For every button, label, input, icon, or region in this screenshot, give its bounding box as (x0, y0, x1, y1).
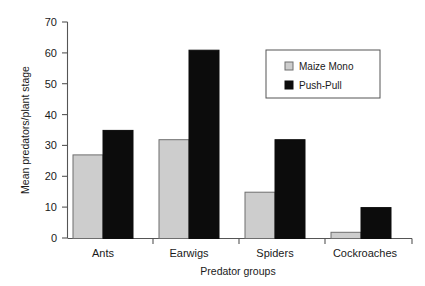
y-tick-label-60: 60 (45, 47, 57, 59)
y-tick-label-30: 30 (45, 139, 57, 151)
legend-swatch-maize-mono (285, 62, 293, 70)
y-tick-label-70: 70 (45, 16, 57, 28)
bar-group-cockroaches (331, 208, 391, 239)
chart-canvas: Mean predators/plant stage 0 10 20 30 40… (0, 0, 425, 286)
bar-push-pull-earwigs (189, 50, 219, 238)
bar-group-spiders (245, 140, 305, 239)
chart-legend: Maize Mono Push-Pull (266, 50, 380, 98)
bar-maize-mono-earwigs (159, 140, 189, 239)
x-axis-title: Predator groups (200, 265, 275, 277)
y-axis-title: Mean predators/plant stage (19, 66, 31, 194)
y-tick-label-0: 0 (51, 232, 57, 244)
legend-label-push-pull: Push-Pull (299, 80, 342, 91)
x-axis-category-labels: Ants Earwigs Spiders Cockroaches (92, 247, 398, 259)
bar-group-earwigs (159, 50, 219, 238)
category-label-cockroaches: Cockroaches (333, 247, 398, 259)
x-axis-ticks (153, 239, 412, 245)
category-label-spiders: Spiders (256, 247, 294, 259)
bar-push-pull-ants (103, 130, 133, 238)
bar-maize-mono-cockroaches (331, 232, 361, 238)
y-tick-label-20: 20 (45, 170, 57, 182)
bar-maize-mono-ants (73, 155, 103, 239)
y-axis-ticks: 0 10 20 30 40 50 60 70 (45, 16, 68, 244)
bar-push-pull-spiders (275, 140, 305, 239)
y-tick-label-40: 40 (45, 109, 57, 121)
bar-group-ants (73, 130, 133, 238)
category-label-ants: Ants (92, 247, 115, 259)
category-label-earwigs: Earwigs (169, 247, 209, 259)
legend-swatch-push-pull (285, 81, 293, 89)
bar-push-pull-cockroaches (361, 208, 391, 239)
y-tick-label-50: 50 (45, 78, 57, 90)
y-tick-label-10: 10 (45, 201, 57, 213)
legend-label-maize-mono: Maize Mono (299, 61, 354, 72)
bar-maize-mono-spiders (245, 192, 275, 238)
bar-chart-figure: Mean predators/plant stage 0 10 20 30 40… (0, 0, 425, 286)
